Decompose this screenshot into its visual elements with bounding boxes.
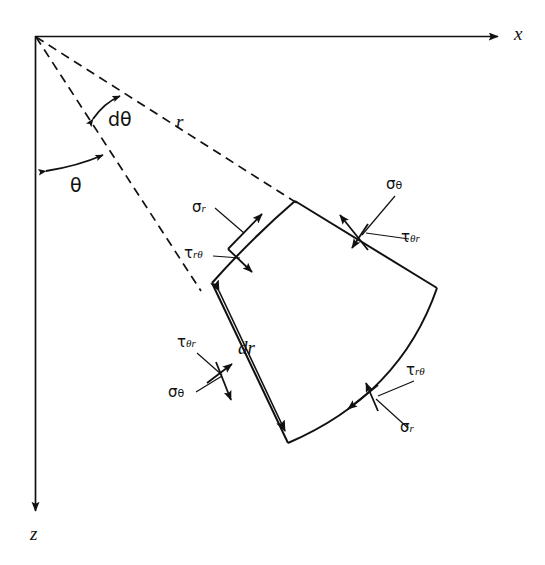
stress-label-tau-r-theta-top-left: τrθ — [184, 246, 203, 261]
dimension-label-dr: dr — [238, 338, 255, 357]
stress-label-tau-theta-r-top-right: τθr — [401, 230, 420, 245]
figure-canvas: x z r θ dθ dr σr τrθ σθ τθr τθr σθ τrθ σ… — [0, 0, 545, 565]
stress-label-sigma-r-bottom-right: σr — [400, 420, 414, 435]
stress-base-glyph: τ — [406, 361, 415, 379]
arc-theta — [46, 155, 103, 171]
angle-label-dtheta: dθ — [108, 110, 132, 129]
stress-arrows-lower-tangential — [196, 353, 232, 400]
stress-base-glyph: σ — [386, 175, 396, 193]
stress-arrows-inner-radial-top — [213, 208, 262, 272]
stress-label-tau-theta-r-bottom-left: τθr — [177, 335, 196, 350]
angle-label-theta: θ — [70, 176, 82, 195]
diagram-svg — [0, 0, 545, 565]
stress-arrows-upper-tangential — [340, 196, 409, 250]
stress-subscript: rθ — [415, 365, 425, 377]
stress-subscript: θ — [178, 387, 185, 400]
axis-label-x: x — [514, 24, 522, 43]
dimension-dr — [219, 291, 285, 431]
stress-base-glyph: σ — [192, 198, 202, 216]
stress-label-tau-r-theta-bottom-right: τrθ — [406, 363, 425, 378]
radius-label-r: r — [176, 112, 183, 131]
axis-label-z: z — [30, 524, 37, 543]
ray-radius-lower — [36, 37, 201, 291]
stress-subscript: θ — [396, 179, 403, 192]
stress-subscript: r — [410, 422, 414, 434]
stress-subscript: r — [202, 202, 206, 214]
stress-label-sigma-r-top-left: σr — [192, 200, 206, 215]
stress-base-glyph: σ — [168, 383, 178, 401]
stress-label-sigma-theta-top-right: σθ — [386, 177, 402, 192]
stress-subscript: θr — [410, 232, 420, 244]
stress-base-glyph: τ — [177, 333, 186, 351]
stress-subscript: θr — [186, 337, 196, 349]
stress-label-sigma-theta-bottom-left: σθ — [168, 385, 184, 400]
angle-label-dtheta-text: dθ — [108, 108, 132, 130]
stress-subscript: rθ — [193, 248, 203, 260]
angle-label-theta-text: θ — [70, 174, 82, 196]
stress-base-glyph: τ — [401, 228, 410, 246]
stress-base-glyph: τ — [184, 244, 193, 262]
stress-base-glyph: σ — [400, 418, 410, 436]
